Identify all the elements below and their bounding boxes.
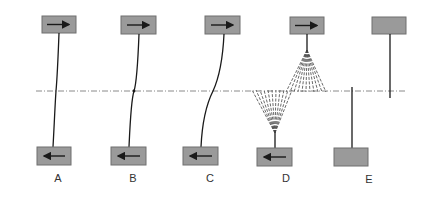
lower-fracture-fan — [252, 90, 292, 133]
panel-label-d: D — [282, 172, 290, 184]
top-block — [372, 17, 406, 34]
deformed-line — [53, 33, 59, 147]
upper-fracture-fan — [286, 50, 326, 92]
panel-label-b: B — [129, 172, 136, 184]
panel-label-e: E — [365, 173, 372, 185]
shear-deformation-diagram — [0, 0, 426, 201]
panel-label-a: A — [54, 172, 61, 184]
bottom-block — [334, 148, 368, 166]
panel-label-c: C — [206, 172, 214, 184]
